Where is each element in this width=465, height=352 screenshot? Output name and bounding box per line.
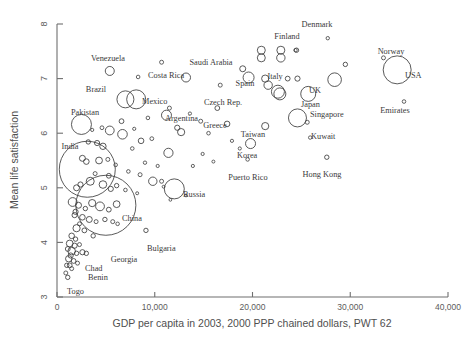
data-point: [86, 140, 90, 144]
data-point: [130, 147, 134, 151]
data-point: [136, 192, 139, 195]
data-point: [133, 127, 136, 130]
point-label: Korea: [237, 151, 258, 160]
data-point: [149, 177, 157, 185]
data-point: [80, 214, 86, 220]
data-point: [105, 126, 114, 135]
point-label: Venezuela: [91, 54, 125, 63]
data-point: [277, 46, 285, 54]
y-axis-title: Mean life satisfaction: [8, 111, 20, 209]
data-point: [73, 237, 77, 241]
point-label: Greece: [203, 121, 227, 130]
data-point: [160, 179, 164, 183]
point-label: Italy: [267, 72, 283, 81]
data-point: [93, 172, 97, 176]
y-tick-label: 4: [39, 240, 49, 245]
x-tick-label: 0: [55, 302, 60, 312]
data-point-denmark: [326, 37, 329, 40]
data-point: [164, 148, 173, 157]
data-point: [343, 62, 347, 66]
point-label: Czech Rep.: [204, 98, 242, 107]
data-point: [91, 128, 94, 131]
data-point: [257, 54, 265, 62]
data-point: [100, 126, 104, 130]
data-point: [77, 243, 81, 247]
data-point: [199, 119, 203, 123]
point-label: UK: [309, 86, 321, 95]
point-label: Benin: [88, 273, 109, 282]
data-point-singapore: [305, 120, 309, 124]
y-tick-label: 5: [39, 185, 49, 190]
point-label-layer: VenezuelaCosta RicaBrazilMexicoSaudi Ara…: [61, 20, 421, 296]
point-label: Russia: [183, 190, 205, 199]
data-point: [76, 261, 80, 265]
data-point: [96, 202, 105, 211]
data-point-hong-kong: [325, 155, 329, 159]
point-label: Argentina: [165, 114, 198, 123]
data-point: [84, 159, 90, 165]
data-point-costa-rica: [136, 75, 140, 79]
data-point: [74, 185, 80, 191]
point-label: China: [122, 214, 142, 223]
x-tick-label: 30,000: [337, 302, 363, 312]
data-point: [111, 220, 115, 224]
point-label: Spain: [236, 79, 256, 88]
data-point: [113, 201, 120, 208]
point-label: Brazil: [86, 85, 107, 94]
data-point-taiwan: [262, 123, 269, 130]
data-point-emirates: [402, 100, 406, 104]
point-label: Emirates: [380, 106, 410, 115]
x-axis-title: GDP per capita in 2003, 2000 PPP chained…: [112, 317, 391, 329]
data-point: [89, 199, 96, 206]
data-point-pakistan: [71, 114, 91, 134]
chart-page: VenezuelaCosta RicaBrazilMexicoSaudi Ara…: [0, 0, 465, 352]
y-tick-label: 7: [39, 76, 49, 81]
data-point-venezuela: [105, 66, 114, 75]
data-point: [116, 222, 120, 226]
bubble-layer: [59, 37, 411, 280]
point-label: Taiwan: [241, 130, 266, 139]
point-label: Hong Kong: [303, 170, 342, 179]
data-point: [240, 66, 246, 72]
data-point: [99, 181, 107, 189]
point-label: Japan: [301, 100, 321, 109]
point-label: Kuwait: [311, 132, 336, 141]
data-point: [295, 76, 300, 81]
data-point-china: [76, 175, 136, 235]
y-tick-layer: 345678: [39, 21, 63, 299]
y-tick-label: 6: [39, 131, 49, 136]
data-point: [106, 207, 111, 212]
data-point: [106, 157, 110, 161]
data-point-korea: [246, 139, 256, 149]
point-label: Mexico: [142, 97, 167, 106]
data-point: [86, 216, 92, 222]
data-point: [167, 106, 171, 110]
data-point-georgia: [91, 234, 95, 238]
data-point: [178, 129, 185, 136]
point-label: India: [61, 142, 78, 151]
x-tick-label: 10,000: [142, 302, 168, 312]
data-point-italy: [271, 85, 284, 98]
point-label: Saudi Arabia: [189, 58, 232, 67]
data-point: [138, 173, 142, 177]
point-label: USA: [405, 71, 422, 80]
point-label: Denmark: [302, 20, 334, 29]
data-point: [114, 183, 118, 187]
data-point: [160, 60, 164, 64]
point-label: Costa Rica: [148, 71, 184, 80]
data-point: [83, 206, 87, 210]
data-point: [79, 155, 85, 161]
point-label: Togo: [67, 287, 84, 296]
point-label: Norway: [378, 47, 406, 56]
data-point: [96, 157, 103, 164]
data-point: [328, 73, 342, 87]
data-point: [76, 202, 82, 208]
point-label: Georgia: [111, 255, 138, 264]
point-label: Pakistan: [71, 108, 100, 117]
data-point: [94, 220, 98, 224]
data-point: [124, 188, 128, 192]
data-point: [119, 119, 124, 124]
scatter-plot: VenezuelaCosta RicaBrazilMexicoSaudi Ara…: [0, 0, 465, 352]
data-point: [72, 213, 77, 218]
data-point-togo: [66, 275, 70, 279]
